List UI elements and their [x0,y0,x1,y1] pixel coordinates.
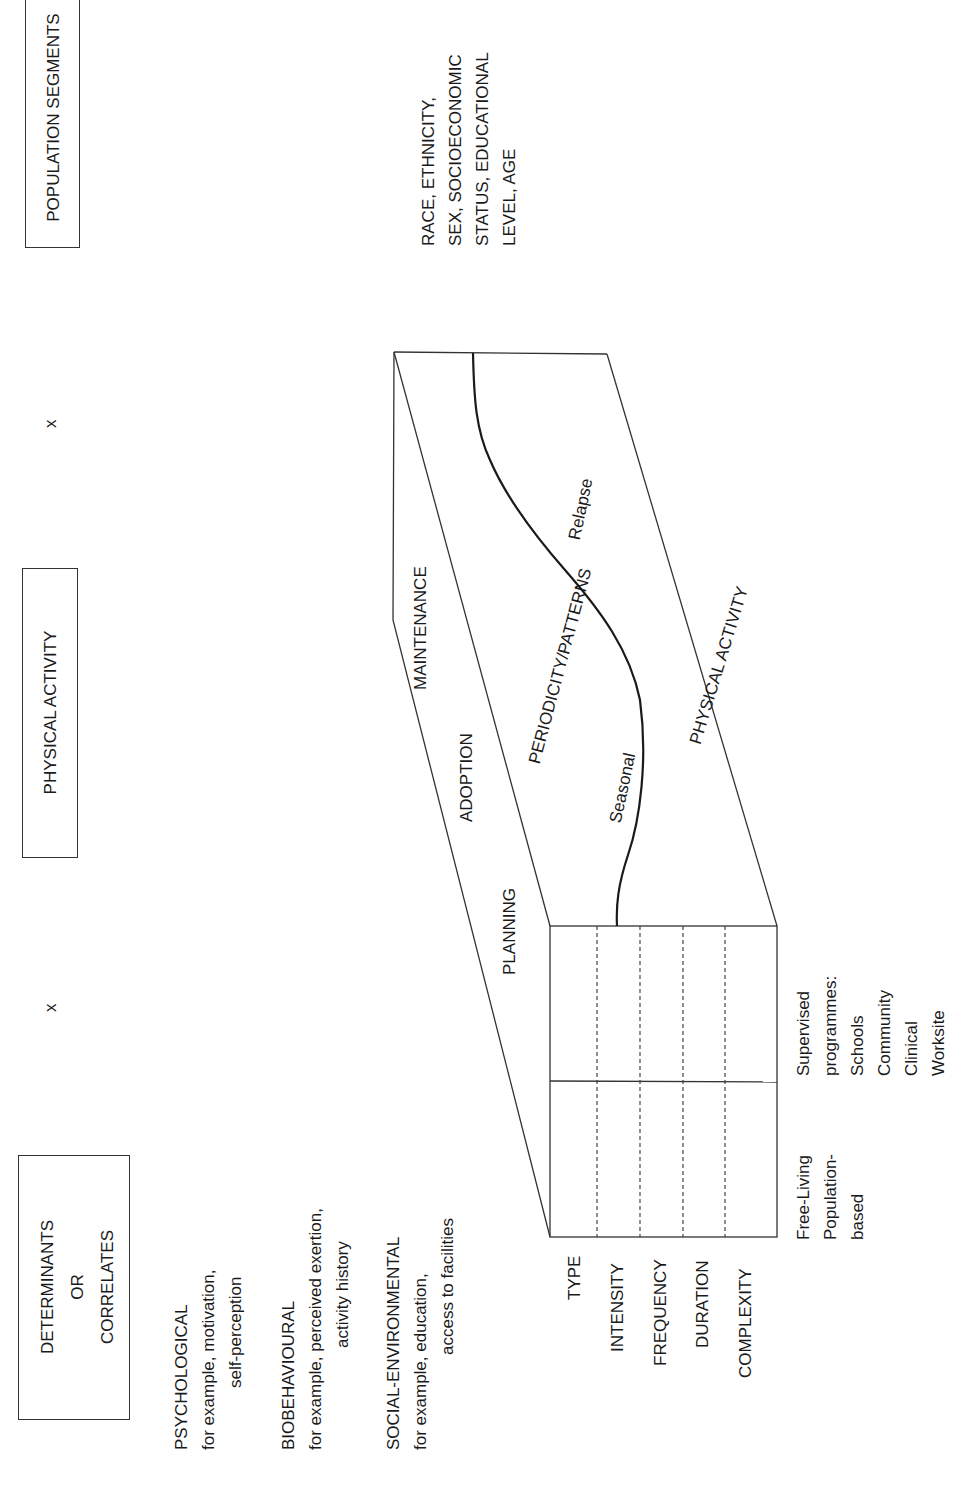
stage-maintenance: MAINTENANCE [408,566,434,690]
determinant-social-environmental: SOCIAL-ENVIRONMENTAL for example, educat… [380,1218,461,1450]
determinants-header: DETERMINANTS OR CORRELATES [33,1202,123,1372]
segment-line: STATUS, EDUCATIONAL [469,52,496,246]
determinant-example: for example, perceived exertion, [302,1208,329,1450]
determinants-line-2: OR [63,1202,93,1372]
segment-line: RACE, ETHNICITY, [415,52,442,246]
back-top-edge [394,352,607,354]
determinant-example-cont: activity history [329,1208,356,1450]
segment-line: LEVEL, AGE [496,52,523,246]
physical-activity-header: PHYSICAL ACTIVITY [38,585,64,840]
row-label-complexity: COMPLEXITY [733,1268,759,1378]
segment-line: SEX, SOCIOECONOMIC [442,52,469,246]
column-label-supervised: Supervised programmes: Schools Community… [790,976,952,1076]
determinant-example-cont: access to facilities [434,1218,461,1450]
column-line: Community [871,976,898,1076]
column-divider [550,1081,777,1082]
determinants-line-3: CORRELATES [93,1202,123,1372]
stage-adoption: ADOPTION [454,733,480,822]
determinants-line-1: DETERMINANTS [33,1202,63,1372]
row-label-type: TYPE [562,1256,588,1300]
multiply-operator-1: x [38,1004,64,1013]
column-label-free-living: Free-Living Population- based [790,1154,871,1240]
column-line: Clinical [898,976,925,1076]
determinant-psychological: PSYCHOLOGICAL for example, motivation, s… [168,1270,249,1450]
column-line: Schools [844,976,871,1076]
population-segments-header: POPULATION SEGMENTS [41,0,67,240]
determinant-example: for example, education, [407,1218,434,1450]
column-line: Worksite [925,976,952,1076]
population-segments-list: RACE, ETHNICITY, SEX, SOCIOECONOMIC STAT… [415,52,523,246]
multiply-operator-2: x [38,420,64,429]
determinant-biobehavioural: BIOBEHAVIOURAL for example, perceived ex… [275,1208,356,1450]
row-label-duration: DURATION [690,1260,716,1348]
row-label-frequency: FREQUENCY [648,1259,674,1366]
determinant-title: BIOBEHAVIOURAL [275,1208,302,1450]
determinant-title: SOCIAL-ENVIRONMENTAL [380,1218,407,1450]
determinant-example-cont: self-perception [222,1270,249,1450]
determinant-title: PSYCHOLOGICAL [168,1270,195,1450]
determinant-example: for example, motivation, [195,1270,222,1450]
stage-planning: PLANNING [497,888,523,975]
column-line: Supervised [790,976,817,1076]
column-line: Free-Living [790,1154,817,1240]
row-label-intensity: INTENSITY [605,1263,631,1352]
column-line: Population- [817,1154,844,1240]
column-line: based [844,1154,871,1240]
column-line: programmes: [817,976,844,1076]
